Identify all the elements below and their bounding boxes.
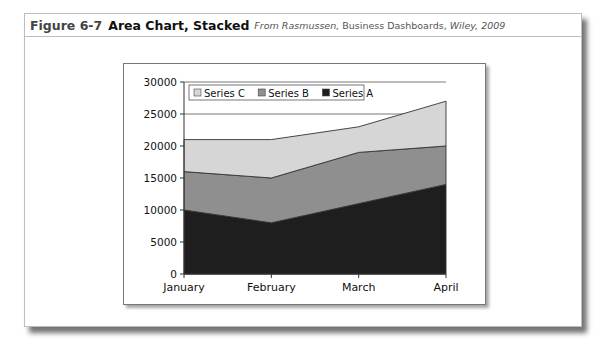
y-tick-label: 10000 <box>144 204 177 216</box>
y-tick-label: 25000 <box>144 108 177 120</box>
legend-label: Series C <box>204 88 245 99</box>
y-tick-label: 0 <box>170 268 177 280</box>
x-tick-label: April <box>433 281 458 294</box>
x-tick-label: January <box>162 281 205 294</box>
legend-label: Series A <box>332 88 373 99</box>
legend-swatch-series-a <box>322 89 329 96</box>
figure-caption: Figure 6-7 Area Chart, Stacked From Rasm… <box>25 14 581 37</box>
legend-swatch-series-b <box>258 89 265 96</box>
source-prefix: From Rasmussen, <box>254 20 339 31</box>
source-book: Business Dashboards, <box>342 20 446 31</box>
figure-title: Area Chart, Stacked <box>108 18 249 33</box>
x-tick-label: February <box>247 281 296 294</box>
figure-frame: Figure 6-7 Area Chart, Stacked From Rasm… <box>24 13 582 327</box>
area-chart: 300002500020000150001000050000JanuaryFeb… <box>124 64 485 304</box>
figure-source: From Rasmussen, Business Dashboards, Wil… <box>254 20 505 31</box>
y-tick-label: 30000 <box>144 76 177 88</box>
chart-area: 300002500020000150001000050000JanuaryFeb… <box>123 63 486 305</box>
y-tick-label: 15000 <box>144 172 177 184</box>
x-tick-label: March <box>342 281 376 294</box>
legend-label: Series B <box>268 88 309 99</box>
y-tick-label: 5000 <box>150 236 177 248</box>
source-publisher: Wiley, 2009 <box>450 20 506 31</box>
figure-number: Figure 6-7 <box>30 18 102 33</box>
y-tick-label: 20000 <box>144 140 177 152</box>
legend-swatch-series-c <box>194 89 201 96</box>
